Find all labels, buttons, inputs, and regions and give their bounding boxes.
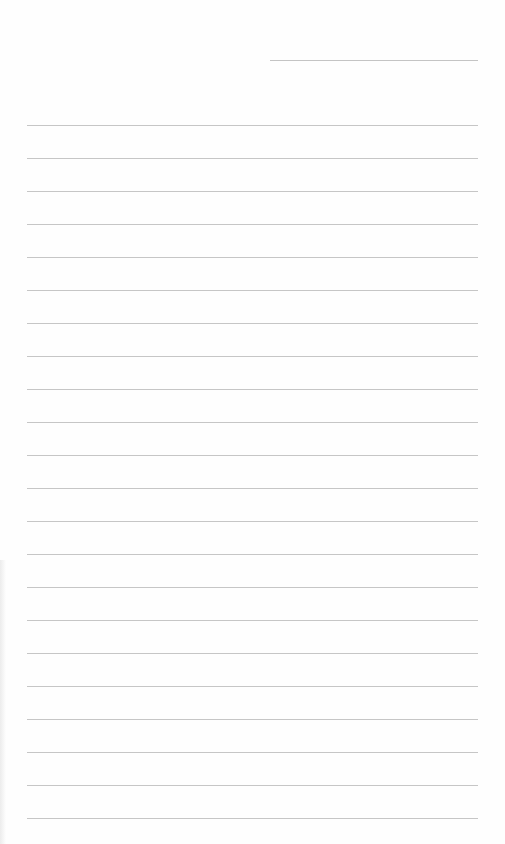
ruled-line bbox=[27, 125, 478, 126]
ruled-line bbox=[27, 389, 478, 390]
ruled-line bbox=[27, 620, 478, 621]
ruled-line bbox=[27, 653, 478, 654]
header-date-line bbox=[270, 60, 478, 61]
ruled-line bbox=[27, 752, 478, 753]
ruled-line bbox=[27, 356, 478, 357]
ruled-line bbox=[27, 224, 478, 225]
ruled-line bbox=[27, 158, 478, 159]
ruled-line bbox=[27, 422, 478, 423]
page-edge-shadow bbox=[0, 560, 6, 844]
ruled-line bbox=[27, 290, 478, 291]
ruled-line bbox=[27, 686, 478, 687]
ruled-line bbox=[27, 554, 478, 555]
ruled-line bbox=[27, 818, 478, 819]
ruled-line bbox=[27, 191, 478, 192]
ruled-line bbox=[27, 785, 478, 786]
ruled-line bbox=[27, 455, 478, 456]
ruled-line bbox=[27, 257, 478, 258]
lined-paper-page bbox=[0, 0, 505, 844]
ruled-line bbox=[27, 719, 478, 720]
ruled-line bbox=[27, 521, 478, 522]
ruled-line bbox=[27, 323, 478, 324]
ruled-line bbox=[27, 488, 478, 489]
ruled-line bbox=[27, 587, 478, 588]
